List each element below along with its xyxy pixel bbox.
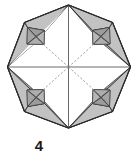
bottom-right-pocket [93, 90, 111, 107]
figure-container: 4 [0, 0, 138, 162]
figure-step-number: 4 [22, 137, 56, 155]
bottom-left-pocket [27, 90, 45, 107]
origami-octagon-diagram [0, 0, 138, 135]
top-left-pocket [27, 28, 45, 45]
top-right-pocket [93, 28, 111, 45]
